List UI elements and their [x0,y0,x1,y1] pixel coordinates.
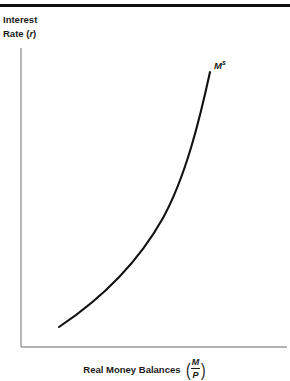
plot-area [0,0,290,381]
x-axis-label-text: Real Money Balances [83,364,180,375]
x-axis-label: Real Money Balances(MP) [0,358,290,380]
curve-label-superscript: s [222,59,226,66]
fraction-numerator: M [191,358,201,368]
paren-close: ) [201,360,206,379]
money-supply-curve [59,72,210,327]
real-money-fraction: MP [191,358,201,380]
fraction-bar [191,368,201,369]
money-supply-figure: ... Interest Rate (r) Ms Real Money Bala… [0,0,290,381]
money-supply-curve-label: Ms [214,60,226,71]
fraction-denominator: P [191,370,201,380]
x-axis-fraction-group: (MP) [185,358,207,380]
curve-label-base: M [214,60,222,71]
paren-open: ( [185,360,190,379]
